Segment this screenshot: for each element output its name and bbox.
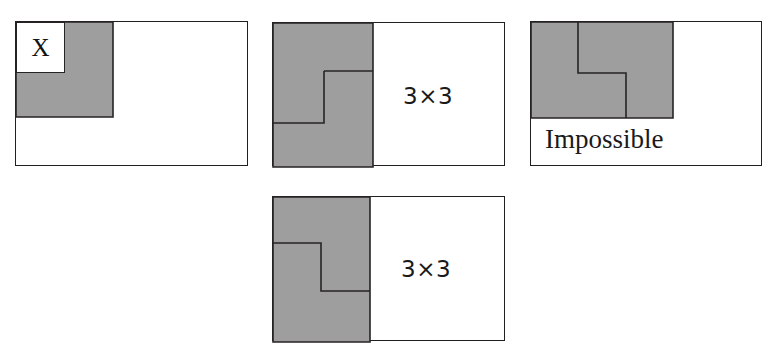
panel-bottom-middle-3x3: 3×3 (272, 196, 505, 341)
figure-root: X 3×3 Impossible 3×3 (0, 0, 782, 357)
panel-top-middle-3x3: 3×3 (272, 22, 505, 166)
panel-4-caption: 3×3 (401, 258, 451, 281)
shaded-block (531, 22, 673, 118)
panel-impossible: Impossible (530, 21, 762, 166)
panel-4-shading (273, 197, 506, 342)
panel-x-marked: X (15, 21, 248, 166)
panel-2-shading (273, 23, 506, 167)
shaded-block (273, 23, 373, 167)
panel-3-caption: Impossible (545, 126, 664, 153)
x-cell: X (16, 22, 65, 73)
panel-2-caption: 3×3 (403, 85, 453, 108)
x-cell-label: X (31, 35, 49, 60)
